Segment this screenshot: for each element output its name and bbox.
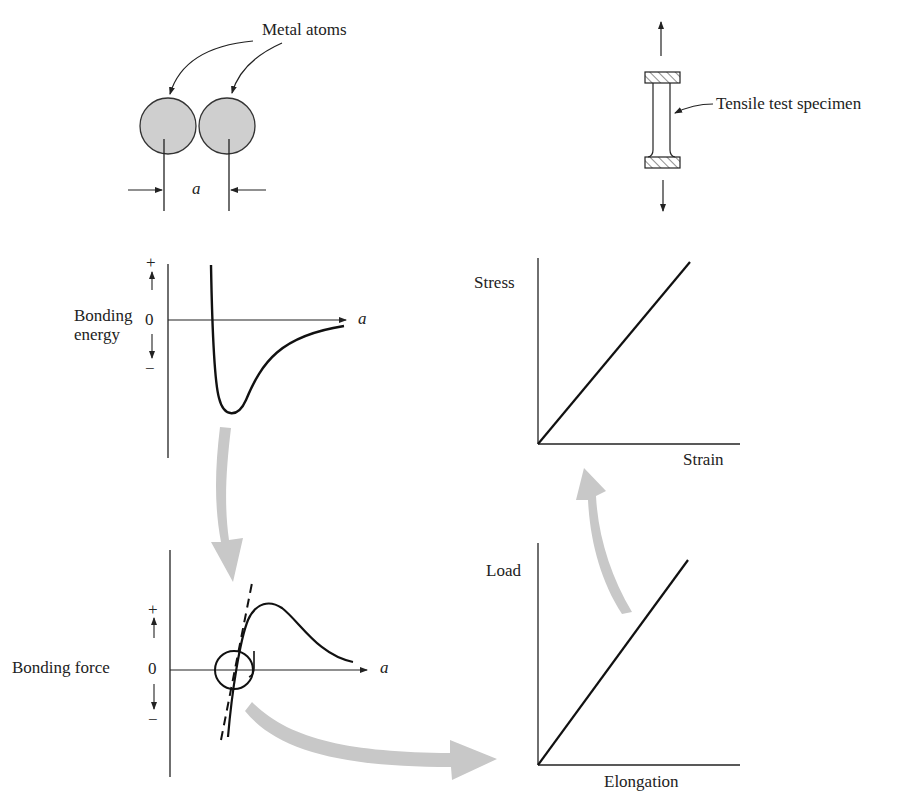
- energy-zero-label: 0: [145, 311, 154, 330]
- pointer-arrow-left: [170, 41, 253, 94]
- specimen-pointer-arrow: [675, 104, 713, 113]
- stress-strain-line: [538, 262, 690, 444]
- metal-atoms: [128, 41, 282, 211]
- tensile-specimen: [645, 22, 713, 211]
- stress-label: Stress: [474, 274, 515, 293]
- force-minus-sign: −: [148, 711, 158, 730]
- energy-ylabel-line2: energy: [74, 326, 120, 345]
- tangent-line: [221, 583, 252, 740]
- flow-arrow-energy-to-force: [211, 427, 243, 582]
- bonding-energy-plot: [152, 264, 346, 458]
- strain-label: Strain: [683, 451, 724, 470]
- pointer-arrow-right: [232, 43, 282, 93]
- elongation-label: Elongation: [604, 773, 679, 792]
- tensile-specimen-label: Tensile test specimen: [716, 95, 861, 114]
- energy-x-label: a: [358, 310, 367, 329]
- flow-arrow-load-to-stress: [576, 468, 632, 614]
- energy-minus-sign: −: [145, 360, 155, 379]
- atom-right: [199, 98, 255, 154]
- force-ylabel: Bonding force: [12, 659, 110, 678]
- energy-plus-sign: +: [146, 254, 156, 273]
- atom-left: [140, 98, 196, 154]
- force-zero-label: 0: [148, 660, 157, 679]
- stress-strain-plot: [538, 258, 740, 444]
- energy-curve: [211, 265, 344, 413]
- force-plus-sign: +: [148, 601, 158, 620]
- load-elongation-plot: [538, 543, 740, 765]
- atom-spacing-label: a: [192, 180, 201, 199]
- diagram-canvas: [0, 0, 914, 798]
- bonding-force-plot: [154, 550, 367, 777]
- energy-ylabel-line1: Bonding: [74, 307, 133, 326]
- flow-arrow-force-to-load: [245, 702, 497, 780]
- load-label: Load: [486, 562, 521, 581]
- metal-atoms-label: Metal atoms: [262, 21, 347, 40]
- force-x-label: a: [380, 659, 389, 678]
